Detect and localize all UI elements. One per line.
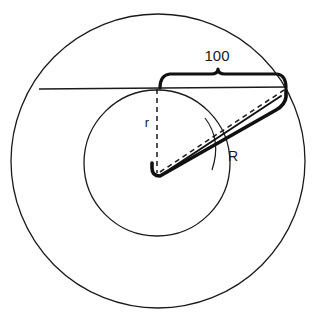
- outer-radius-label: R: [228, 148, 238, 164]
- geometry-diagram-svg: 100 r R: [0, 0, 313, 324]
- outer-radius-dashed-line: [160, 90, 284, 172]
- sector-wedge-outline: [152, 90, 286, 176]
- horizontal-chord-line: [39, 87, 287, 89]
- inner-radius-label: r: [145, 115, 150, 130]
- arc-length-brace: [160, 69, 286, 88]
- sector-wedge-inner-edge: [161, 96, 281, 175]
- figure-root: 100 r R: [0, 0, 313, 324]
- outer-circle: [11, 14, 305, 308]
- arc-length-label: 100: [204, 47, 229, 64]
